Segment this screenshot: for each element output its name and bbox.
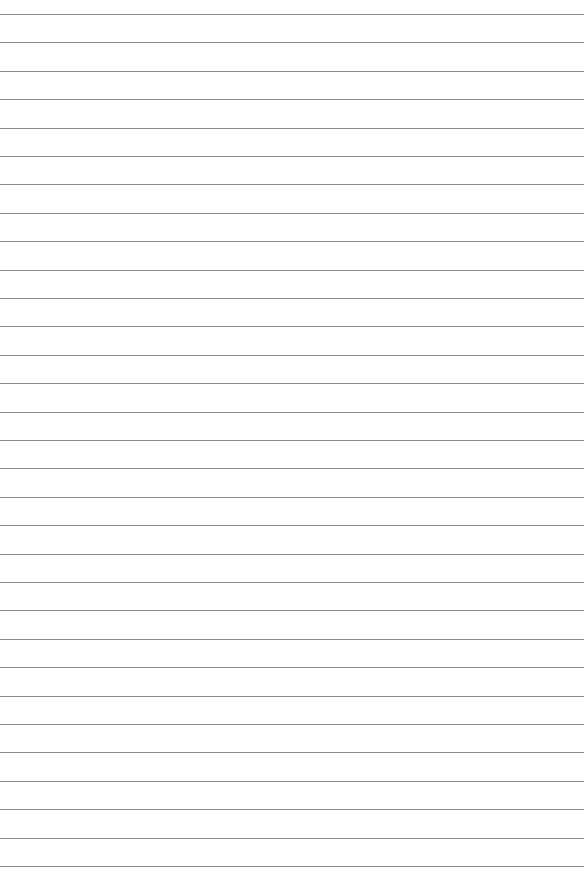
ruled-line: [0, 866, 584, 867]
ruled-line: [0, 525, 584, 526]
ruled-line: [0, 14, 584, 15]
ruled-line: [0, 752, 584, 753]
ruled-line: [0, 582, 584, 583]
ruled-line: [0, 355, 584, 356]
ruled-line: [0, 838, 584, 839]
ruled-line: [0, 667, 584, 668]
ruled-line: [0, 724, 584, 725]
ruled-line: [0, 412, 584, 413]
ruled-line: [0, 696, 584, 697]
ruled-line: [0, 42, 584, 43]
ruled-line: [0, 610, 584, 611]
ruled-line: [0, 156, 584, 157]
ruled-line: [0, 298, 584, 299]
ruled-line: [0, 639, 584, 640]
ruled-line: [0, 99, 584, 100]
ruled-line: [0, 497, 584, 498]
ruled-line: [0, 809, 584, 810]
ruled-line: [0, 213, 584, 214]
ruled-line: [0, 781, 584, 782]
ruled-line: [0, 326, 584, 327]
lined-paper-page: [0, 0, 588, 874]
ruled-line: [0, 241, 584, 242]
ruled-line: [0, 184, 584, 185]
ruled-line: [0, 554, 584, 555]
ruled-line: [0, 71, 584, 72]
ruled-line: [0, 270, 584, 271]
ruled-line: [0, 128, 584, 129]
ruled-line: [0, 468, 584, 469]
ruled-line: [0, 383, 584, 384]
ruled-line: [0, 440, 584, 441]
